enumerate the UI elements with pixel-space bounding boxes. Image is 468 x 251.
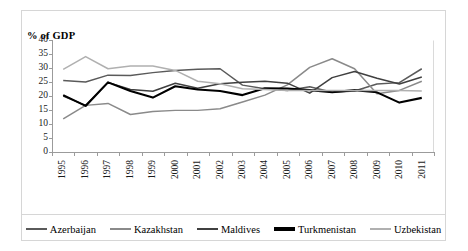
y-tick-mark <box>49 68 53 69</box>
x-tick-mark <box>389 152 390 156</box>
y-tick-mark <box>49 138 53 139</box>
y-tick-label: 30 <box>18 63 48 73</box>
legend-label: Maldives <box>221 224 260 235</box>
y-tick-label: 0 <box>18 147 48 157</box>
x-tick-mark <box>254 152 255 156</box>
x-tick-label: 2006 <box>305 160 315 179</box>
y-tick-label: 35 <box>18 49 48 59</box>
x-tick-mark <box>322 152 323 156</box>
x-tick-label: 2011 <box>418 160 428 179</box>
x-tick-label: 2001 <box>193 160 203 179</box>
y-tick-mark <box>49 82 53 83</box>
x-tick-label: 2007 <box>328 160 338 179</box>
y-tick-mark <box>49 96 53 97</box>
x-tick-mark <box>434 152 435 156</box>
x-tick-label: 2010 <box>395 160 405 179</box>
chart-legend: AzerbaijanKazakhstanMaldivesTurkmenistan… <box>22 219 445 239</box>
y-tick-label: 15 <box>18 105 48 115</box>
x-tick-mark <box>344 152 345 156</box>
legend-entry-uzbekistan[interactable]: Uzbekistan <box>370 224 441 235</box>
x-tick-mark <box>232 152 233 156</box>
x-tick-label: 2002 <box>216 160 226 179</box>
x-tick-mark <box>119 152 120 156</box>
y-tick-mark <box>49 40 53 41</box>
y-tick-label: 25 <box>18 77 48 87</box>
y-tick-label: 5 <box>18 133 48 143</box>
y-tick-label: 40 <box>18 35 48 45</box>
x-tick-mark <box>367 152 368 156</box>
x-tick-label: 2004 <box>260 160 270 179</box>
x-tick-label: 1996 <box>81 160 91 179</box>
x-tick-mark <box>74 152 75 156</box>
x-tick-label: 1995 <box>58 160 68 179</box>
x-tick-label: 1999 <box>148 160 158 179</box>
x-tick-label: 1998 <box>126 160 136 179</box>
legend-separator <box>22 214 445 215</box>
legend-entry-azerbaijan[interactable]: Azerbaijan <box>26 224 96 235</box>
x-tick-label: 2008 <box>350 160 360 179</box>
x-tick-label: 1997 <box>103 160 113 179</box>
legend-label: Azerbaijan <box>50 224 96 235</box>
legend-label: Uzbekistan <box>394 224 441 235</box>
x-tick-mark <box>52 152 53 156</box>
x-tick-label: 2000 <box>171 160 181 179</box>
y-tick-mark <box>49 110 53 111</box>
y-tick-label: 20 <box>18 91 48 101</box>
legend-line-swatch <box>197 228 218 231</box>
x-tick-mark <box>187 152 188 156</box>
x-tick-mark <box>97 152 98 156</box>
x-tick-mark <box>209 152 210 156</box>
x-tick-label: 2003 <box>238 160 248 179</box>
legend-label: Turkmenistan <box>298 224 356 235</box>
x-tick-mark <box>164 152 165 156</box>
legend-entry-kazakhstan[interactable]: Kazakhstan <box>110 224 183 235</box>
legend-entry-maldives[interactable]: Maldives <box>197 224 260 235</box>
x-tick-label: 2005 <box>283 160 293 179</box>
legend-entry-turkmenistan[interactable]: Turkmenistan <box>274 224 356 235</box>
y-tick-label: 10 <box>18 119 48 129</box>
x-tick-mark <box>142 152 143 156</box>
legend-line-swatch <box>110 228 131 231</box>
x-tick-mark <box>277 152 278 156</box>
legend-line-swatch <box>370 228 391 230</box>
x-axis-line <box>52 152 435 153</box>
legend-line-swatch <box>274 227 295 230</box>
x-tick-mark <box>299 152 300 156</box>
x-tick-label: 2009 <box>373 160 383 179</box>
plot-area <box>52 40 434 152</box>
legend-label: Kazakhstan <box>134 224 183 235</box>
chart-figure: % of GDP 0510152025303540 19951996199719… <box>0 0 468 251</box>
x-tick-mark <box>412 152 413 156</box>
y-tick-mark <box>49 54 53 55</box>
series-lines <box>52 41 433 152</box>
legend-line-swatch <box>26 228 47 231</box>
y-tick-mark <box>49 124 53 125</box>
